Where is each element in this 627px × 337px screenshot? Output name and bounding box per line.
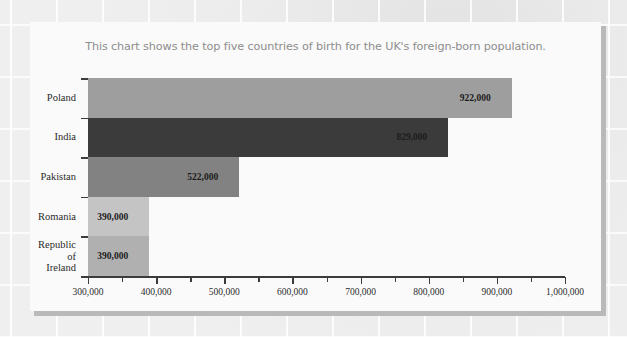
bar-row: 390,000Republic of Ireland bbox=[88, 236, 565, 276]
x-axis-minor-tick bbox=[122, 277, 123, 282]
category-label: Pakistan bbox=[40, 171, 76, 183]
bar-row: 390,000Romania bbox=[88, 197, 565, 237]
x-axis-tick-label: 700,000 bbox=[345, 287, 376, 297]
x-axis-tick-label: 600,000 bbox=[277, 287, 308, 297]
category-label: India bbox=[54, 132, 76, 144]
bar-value-label: 522,000 bbox=[187, 172, 218, 182]
y-axis-tick bbox=[81, 118, 88, 120]
bar-row: 829,000India bbox=[88, 118, 565, 158]
x-axis-tick-label: 300,000 bbox=[73, 287, 104, 297]
x-axis-tick-label: 400,000 bbox=[141, 287, 172, 297]
x-axis-tick bbox=[429, 277, 430, 284]
x-axis-tick-label: 1,000,000 bbox=[546, 287, 584, 297]
bar-value-label: 390,000 bbox=[97, 251, 128, 261]
y-axis-tick bbox=[81, 157, 88, 159]
x-axis-minor-tick bbox=[327, 277, 328, 282]
x-axis-tick-label: 500,000 bbox=[209, 287, 240, 297]
x-axis-minor-tick bbox=[258, 277, 259, 282]
plot-area: 922,000Poland829,000India522,000Pakistan… bbox=[88, 78, 565, 276]
category-label: Poland bbox=[47, 92, 76, 104]
x-axis-tick bbox=[292, 277, 293, 284]
y-axis-tick bbox=[81, 236, 88, 238]
chart-card: This chart shows the top five countries … bbox=[30, 22, 601, 311]
x-axis-tick bbox=[565, 277, 566, 284]
x-axis-tick bbox=[224, 277, 225, 284]
bar[interactable] bbox=[88, 78, 512, 118]
bar-row: 922,000Poland bbox=[88, 78, 565, 118]
x-axis-minor-tick bbox=[395, 277, 396, 282]
y-axis-tick bbox=[81, 197, 88, 199]
x-axis-tick bbox=[497, 277, 498, 284]
bar-row: 522,000Pakistan bbox=[88, 157, 565, 197]
screenshot-stage: This chart shows the top five countries … bbox=[0, 0, 627, 337]
x-axis-minor-tick bbox=[463, 277, 464, 282]
x-axis-tick bbox=[361, 277, 362, 284]
bar[interactable] bbox=[88, 118, 448, 158]
bar-value-label: 922,000 bbox=[460, 93, 491, 103]
y-axis-tick bbox=[81, 276, 88, 278]
x-axis-minor-tick bbox=[190, 277, 191, 282]
category-label: Republic of Ireland bbox=[38, 239, 76, 274]
x-axis-tick-label: 800,000 bbox=[413, 287, 444, 297]
chart-title: This chart shows the top five countries … bbox=[30, 40, 601, 53]
x-axis-tick bbox=[88, 277, 89, 284]
bar-value-label: 829,000 bbox=[396, 132, 427, 142]
y-axis-tick bbox=[81, 78, 88, 80]
x-axis-tick-label: 900,000 bbox=[481, 287, 512, 297]
bar-value-label: 390,000 bbox=[97, 212, 128, 222]
x-axis-minor-tick bbox=[531, 277, 532, 282]
x-axis-tick bbox=[156, 277, 157, 284]
category-label: Romania bbox=[38, 211, 76, 223]
